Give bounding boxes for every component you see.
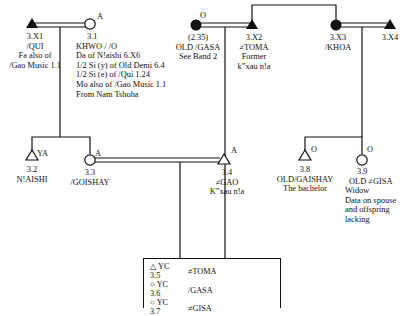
person-name: /KHOA xyxy=(325,43,352,53)
person-id: 3.1 xyxy=(76,32,166,42)
female-circle-icon-39 xyxy=(357,155,367,165)
person-note: 1/2 Si (y) of Old Demi 6.4 xyxy=(76,61,166,71)
person-note: See Band 2 xyxy=(176,52,220,62)
female-deceased-circle-icon-x3 xyxy=(331,20,342,31)
person-gasa-label: (2.35) OLD /GASA See Band 2 xyxy=(176,33,220,62)
person-note: Widow xyxy=(345,186,396,196)
marriage-line-33-34 xyxy=(95,158,220,162)
female-circle-icon-31 xyxy=(85,19,95,29)
person-note: From Nam Tshoha xyxy=(76,90,166,100)
child-row-36: ○ YC 3.6 xyxy=(150,281,168,298)
marriage-line-gasa-x2 xyxy=(196,23,250,27)
person-note: Former xyxy=(238,52,271,62)
person-note: k”xau n!a xyxy=(238,62,271,72)
person-note: and offspring xyxy=(345,205,396,215)
age-tag-38: O xyxy=(311,145,317,154)
person-x2-label: 3.X2 ≠TOMA Former k”xau n!a xyxy=(238,33,271,71)
person-32-label: 3.2 N!AISHI xyxy=(16,165,47,184)
person-id: 3.X1 xyxy=(9,32,61,42)
person-name: ≠GAO xyxy=(210,178,245,188)
age-tag-gasa: O xyxy=(200,11,206,20)
person-x1-label: 3.X1 /QUI Fa also of /Gao Music 1.1 xyxy=(9,32,61,70)
link-x2-x3 xyxy=(252,5,336,20)
person-name: /GOISHAY xyxy=(70,178,109,188)
child-name: ≠TOMA xyxy=(188,268,216,277)
child-id: 3.6 xyxy=(150,289,160,298)
child-row-37: ○ YC 3.7 xyxy=(150,299,168,316)
person-note: Fa also of xyxy=(9,51,61,61)
person-note: K”xau n!a xyxy=(210,187,245,197)
person-39-label: 3.9 OLD ≠GISA Widow Data on spouse and o… xyxy=(345,167,396,225)
person-id: 3.8 xyxy=(277,165,333,175)
male-deceased-triangle-icon-x4 xyxy=(384,19,396,29)
person-note: /Gao Music 1.1 xyxy=(9,61,61,71)
person-name: N!AISHI xyxy=(16,175,47,185)
person-name: ≠TOMA xyxy=(238,43,271,53)
person-note: lacking xyxy=(345,215,396,225)
marriage-line-x1-31 xyxy=(32,23,86,27)
person-note: Da of N!aishi 6.X6 xyxy=(76,51,166,61)
person-id: 3.X3 xyxy=(325,33,352,43)
person-name: /QUI xyxy=(9,42,61,52)
person-31-label: 3.1 KHWO / /O Da of N!aishi 6.X6 1/2 Si … xyxy=(76,32,166,99)
person-name: OLD ≠GISA xyxy=(345,177,396,187)
female-circle-icon-33 xyxy=(85,155,95,165)
age-tag-39: O xyxy=(367,145,373,154)
person-note: The bachelor xyxy=(277,184,333,194)
age-tag-32: YA xyxy=(37,149,48,158)
person-name: KHWO / /O xyxy=(76,42,166,52)
child-name: ≠GISA xyxy=(188,305,212,314)
person-id: 3.X2 xyxy=(238,33,271,43)
person-id: 3.X4 xyxy=(382,33,399,43)
person-34-label: 3.4 ≠GAO K”xau n!a xyxy=(210,168,245,197)
female-deceased-circle-icon-gasa xyxy=(191,20,202,31)
person-name: OLD/GAISHAY xyxy=(277,175,333,185)
male-deceased-triangle-icon-x2 xyxy=(246,19,258,29)
child-id: 3.7 xyxy=(150,307,160,316)
person-x3-label: 3.X3 /KHOA xyxy=(325,33,352,52)
age-tag-34: A xyxy=(231,146,237,155)
person-note: Data on spouse xyxy=(345,196,396,206)
person-id: 3.9 xyxy=(345,167,396,177)
child-row-35: △ YC 3.5 xyxy=(150,263,169,280)
child-id: 3.5 xyxy=(150,271,160,280)
person-x4-label: 3.X4 xyxy=(382,33,399,43)
male-triangle-icon-38 xyxy=(299,150,311,160)
person-id: 3.4 xyxy=(210,168,245,178)
person-name: OLD /GASA xyxy=(176,43,220,53)
male-triangle-icon-34 xyxy=(218,154,230,164)
person-38-label: 3.8 OLD/GAISHAY The bachelor xyxy=(277,165,333,194)
person-id: 3.2 xyxy=(16,165,47,175)
age-tag-31: A xyxy=(97,12,103,21)
person-33-label: 3.3 /GOISHAY xyxy=(70,168,109,187)
child-name: /GASA xyxy=(188,287,213,296)
marriage-line-x3-x4 xyxy=(336,23,388,27)
person-id: (2.35) xyxy=(176,33,220,43)
person-id: 3.3 xyxy=(70,168,109,178)
age-tag-33: A xyxy=(95,149,101,158)
person-note: Mo also of /Gao Music 1.1 xyxy=(76,80,166,90)
person-note: 1/2 Si (e) of /Qui 1.24 xyxy=(76,70,166,80)
children-box: △ YC 3.5 ≠TOMA ○ YC 3.6 /GASA ○ YC 3.7 ≠… xyxy=(143,258,281,308)
